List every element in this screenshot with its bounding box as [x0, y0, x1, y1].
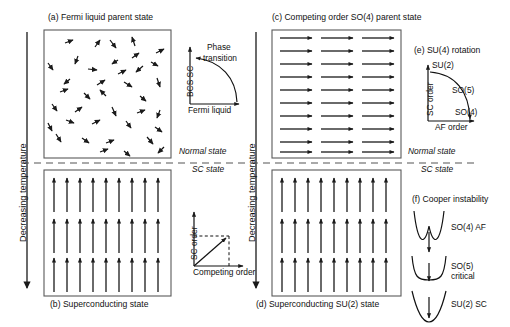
- left-sc-state-label: SC state: [192, 165, 224, 175]
- panel-b-title: (b) Superconducting state: [50, 300, 148, 310]
- left-temperature-axis-label: Decreasing temperature: [18, 143, 28, 242]
- panel-b-box: [44, 170, 171, 296]
- inset-a-xlabel: Fermi liquid: [188, 106, 231, 116]
- panel-f-label-su2sc: SU(2) SC: [451, 300, 487, 310]
- panel-a-title: (a) Fermi liquid parent state: [48, 13, 153, 23]
- figure-root: (a) Fermi liquid parent state (b) Superc…: [0, 0, 510, 327]
- inset-b-xlabel: Competing order: [193, 268, 255, 278]
- panel-f-label-so5-critical: critical: [451, 272, 475, 282]
- panel-f-title: (f) Cooper instability: [412, 195, 488, 205]
- right-sc-state-label: SC state: [421, 165, 453, 175]
- inset-a-ylabel: BCS SC: [185, 66, 195, 97]
- panel-e-annot-so4: SO(4): [455, 108, 477, 118]
- inset-a-title-line1: Phase: [207, 43, 231, 53]
- panel-c-box: [272, 30, 401, 158]
- panel-a-box: [44, 30, 171, 158]
- panel-e-annot-so5: SO(5): [452, 86, 474, 96]
- panel-d-box: [272, 170, 401, 296]
- panel-f-potentials: [412, 211, 446, 322]
- panel-e-title: (e) SU(4) rotation: [414, 46, 480, 56]
- panel-d-title: (d) Superconducting SU(2) state: [256, 300, 379, 310]
- panel-e-xlabel: AF order: [435, 123, 468, 133]
- inset-b-ylabel: SC order: [189, 226, 199, 260]
- panel-f-label-so4af: SO(4) AF: [451, 223, 486, 233]
- panel-c-title: (c) Competing order SO(4) parent state: [272, 13, 422, 23]
- left-normal-state-label: Normal state: [179, 147, 226, 157]
- panel-e-ylabel: SC order: [425, 82, 435, 116]
- right-temperature-axis-label: Decreasing temperature: [247, 143, 257, 242]
- panel-e-annot-su2: SU(2): [432, 61, 454, 71]
- inset-a-title-line2: transition: [203, 54, 237, 64]
- right-normal-state-label: Normal state: [408, 147, 455, 157]
- inset-a-transition-arc: [196, 58, 237, 102]
- inset-b-axes: [194, 212, 243, 266]
